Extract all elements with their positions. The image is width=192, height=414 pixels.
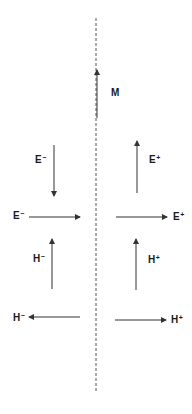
label-h-plus-vertical: H+ xyxy=(148,255,160,265)
label-sign: + xyxy=(180,211,184,218)
label-sign: − xyxy=(42,154,46,161)
label-sign: − xyxy=(41,253,45,260)
label-e-minus-vertical: E− xyxy=(35,155,46,165)
label-e-minus-horizontal: E− xyxy=(13,211,24,221)
label-symbol: H xyxy=(33,253,40,264)
label-symbol: E xyxy=(173,211,180,222)
label-symbol: H xyxy=(13,312,20,323)
label-sign: + xyxy=(156,254,160,261)
label-symbol: H xyxy=(148,254,155,265)
label-e-plus-horizontal: E+ xyxy=(173,212,184,222)
label-sign: + xyxy=(179,314,183,321)
label-sign: + xyxy=(156,154,160,161)
diagram-canvas xyxy=(0,0,192,414)
label-sign: − xyxy=(20,210,24,217)
label-sign: − xyxy=(21,312,25,319)
label-symbol: E xyxy=(13,210,20,221)
label-symbol: E xyxy=(35,154,42,165)
label-m: M xyxy=(111,88,119,98)
label-symbol: M xyxy=(111,87,119,98)
vector-arrows xyxy=(29,70,167,320)
label-symbol: H xyxy=(171,314,178,325)
label-e-plus-vertical: E+ xyxy=(149,155,160,165)
label-symbol: E xyxy=(149,154,156,165)
label-h-plus-horizontal: H+ xyxy=(171,315,183,325)
label-h-minus-vertical: H− xyxy=(33,254,45,264)
label-h-minus-horizontal: H− xyxy=(13,313,25,323)
